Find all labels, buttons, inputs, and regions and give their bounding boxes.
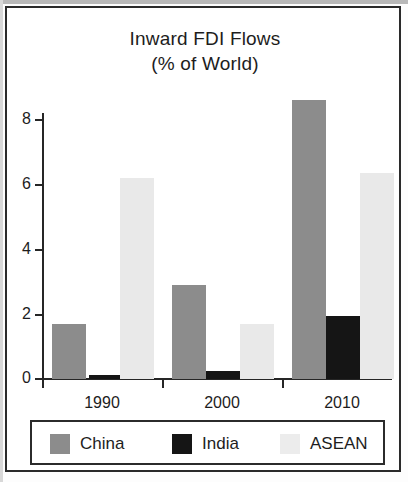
x-tick-label-1990: 1990 [62, 394, 142, 412]
legend-entry-asean: ASEAN [280, 432, 368, 456]
x-tick-label-2000: 2000 [182, 394, 262, 412]
scan-edge-left [0, 0, 3, 482]
legend-entry-china: China [50, 432, 124, 456]
x-tick-left [42, 380, 44, 388]
bars-layer [7, 8, 403, 379]
chart-frame: Inward FDI Flows (% of World) 8 6 4 2 0 [5, 6, 401, 472]
scanned-page: Inward FDI Flows (% of World) 8 6 4 2 0 [0, 0, 408, 482]
scan-edge-top [0, 0, 408, 4]
legend-swatch-india [172, 434, 192, 454]
x-tick-label-2010: 2010 [302, 394, 382, 412]
plot-area: 8 6 4 2 0 [7, 8, 403, 474]
legend-entry-india: India [172, 432, 239, 456]
chart-legend: China India ASEAN [30, 420, 385, 465]
x-tick-1 [162, 380, 164, 388]
bar-asean-1990 [120, 178, 154, 379]
bar-china-1990 [52, 324, 86, 379]
legend-label-india: India [202, 434, 239, 454]
legend-swatch-asean [280, 434, 300, 454]
bar-india-2010 [326, 316, 360, 379]
bar-asean-2000 [240, 324, 274, 379]
legend-label-asean: ASEAN [310, 434, 368, 454]
bar-china-2010 [292, 100, 326, 379]
bar-asean-2010 [360, 173, 394, 379]
x-tick-2 [282, 380, 284, 388]
bar-india-1990 [89, 375, 122, 379]
legend-swatch-china [50, 434, 70, 454]
bar-india-2000 [206, 371, 240, 379]
bar-china-2000 [172, 285, 206, 379]
legend-label-china: China [80, 434, 124, 454]
